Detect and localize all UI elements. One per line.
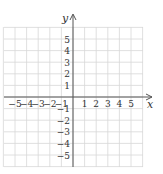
coordinate-plane: −5−4−3−2−11234554321−1−2−3−4−5 x y [0, 0, 163, 174]
y-tick-label: −2 [57, 116, 70, 126]
x-tick-label: 1 [82, 99, 88, 109]
x-tick-label: 4 [117, 99, 123, 109]
x-tick-label: 5 [128, 99, 134, 109]
y-tick-label: 2 [64, 69, 70, 79]
y-tick-label: −1 [57, 104, 70, 114]
y-tick-label: −3 [57, 127, 71, 137]
y-tick-label: −4 [57, 139, 71, 149]
y-axis-label: y [61, 12, 69, 25]
y-tick-label: 1 [64, 81, 70, 91]
y-tick-label: 3 [64, 58, 70, 68]
x-tick-label: 2 [93, 99, 99, 109]
x-tick-label: 3 [105, 99, 111, 109]
y-tick-label: 5 [64, 35, 70, 45]
y-tick-label: −5 [57, 151, 71, 161]
x-axis-label: x [147, 98, 154, 111]
y-tick-label: 4 [64, 46, 70, 56]
